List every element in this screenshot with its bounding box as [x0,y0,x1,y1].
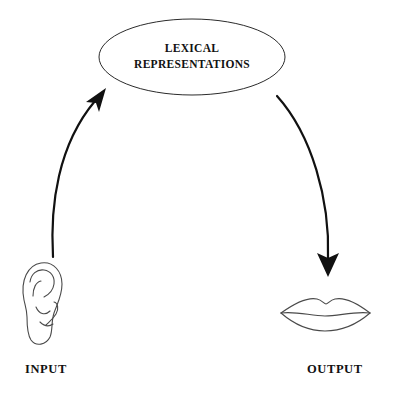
caption-output: OUTPUT [307,362,363,376]
node-label-line1: LEXICAL [165,42,220,54]
curved-arrow-up-icon [52,88,106,257]
ear-icon [23,263,62,345]
lexical-representations-node[interactable]: LEXICAL REPRESENTATIONS [99,19,285,95]
arrow-in-shaft [52,101,95,257]
node-ellipse-outline [99,19,285,95]
lips-mouth-line [281,313,370,316]
lips-upper-outline [281,299,370,313]
arrow-out-shaft [277,96,328,258]
ear-antihelix-upper [33,281,41,296]
lips-icon [281,299,370,331]
caption-input: INPUT [25,362,67,376]
curved-arrow-down-icon [277,96,339,277]
diagram-canvas: LEXICAL REPRESENTATIONS [0,0,398,394]
ear-concha [36,307,50,314]
node-label-line2: REPRESENTATIONS [134,58,250,70]
